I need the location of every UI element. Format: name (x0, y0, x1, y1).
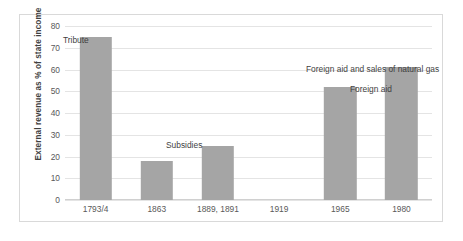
y-tick-label-80: 80 (38, 21, 60, 31)
x-tick-label: 1965 (310, 204, 371, 214)
x-axis-tick-labels: 1793/418631889, 1891191919651980 (65, 204, 432, 214)
bar-slot-1889-1891 (187, 26, 248, 200)
y-tick-label-60: 60 (38, 65, 60, 75)
x-tick-label: 1863 (126, 204, 187, 214)
y-axis-tick-labels: 01020304050607080 (38, 15, 60, 223)
bar-slot-1793-4 (65, 26, 126, 200)
plot-area (65, 26, 432, 200)
bar[interactable] (324, 87, 356, 200)
bar-chart-figure: External revenue as % of state income 01… (19, 14, 443, 222)
bars-layer (65, 26, 432, 200)
annotation-foreign-aid-and-gas: Foreign aid and sales of natural gas (306, 64, 439, 74)
annotation-subsidies: Subsidies (166, 140, 202, 150)
bar[interactable] (202, 146, 234, 200)
y-tick-label-20: 20 (38, 152, 60, 162)
x-tick-label: 1980 (371, 204, 432, 214)
gridline-0 (65, 200, 432, 201)
y-tick-label-40: 40 (38, 108, 60, 118)
bar[interactable] (141, 161, 173, 200)
y-tick-label-30: 30 (38, 130, 60, 140)
annotation-tribute: Tribute (63, 35, 89, 45)
y-tick-label-50: 50 (38, 86, 60, 96)
bar-slot-1919 (249, 26, 310, 200)
bar[interactable] (79, 37, 111, 200)
x-tick-label: 1793/4 (65, 204, 126, 214)
bar-slot-1863 (126, 26, 187, 200)
x-tick-label: 1889, 1891 (187, 204, 248, 214)
y-tick-label-70: 70 (38, 43, 60, 53)
y-tick-label-0: 0 (38, 195, 60, 205)
bar-slot-1980 (371, 26, 432, 200)
y-tick-label-10: 10 (38, 173, 60, 183)
x-tick-label: 1919 (249, 204, 310, 214)
annotation-foreign-aid: Foreign aid (350, 84, 392, 94)
bar-slot-1965 (310, 26, 371, 200)
